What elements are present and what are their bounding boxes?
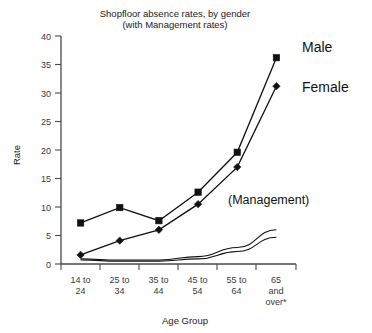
y-axis-label: Rate [11,145,22,165]
series-label-male: Male [302,39,333,55]
y-tick-label: 0 [46,260,51,270]
x-tick-label: 54 [192,286,202,296]
x-tick-label: 64 [231,286,241,296]
x-tick-label: 14 to [70,275,90,285]
x-tick-label: 24 [75,286,85,296]
x-tick-label: 25 to [109,275,129,285]
x-tick-label: 55 to [226,275,246,285]
chart-container: Shopfloor absence rates, by gender (with… [0,0,372,333]
chart-subtitle: (with Management rates) [122,19,227,30]
y-tick-label: 25 [41,117,51,127]
chart-title: Shopfloor absence rates, by gender [100,8,251,19]
y-tick-label: 15 [41,174,51,184]
absence-rates-line-chart: Shopfloor absence rates, by gender (with… [0,0,372,333]
x-tick-label: 65 [271,275,281,285]
y-tick-label: 20 [41,146,51,156]
y-tick-label: 5 [46,231,51,241]
data-point-marker [195,189,201,195]
data-point-marker [77,220,83,226]
y-tick-label: 40 [41,32,51,42]
x-axis-label: Age Group [162,315,208,326]
x-tick-label: 34 [114,286,124,296]
x-tick-label: over* [265,297,287,307]
data-point-marker [273,54,279,60]
management-annotation: (Management) [228,193,309,207]
x-tick-label: and [268,286,283,296]
y-tick-label: 10 [41,203,51,213]
x-tick-label: 44 [153,286,163,296]
y-tick-label: 30 [41,89,51,99]
x-tick-label: 45 to [187,275,207,285]
data-point-marker [156,217,162,223]
y-tick-label: 35 [41,60,51,70]
data-point-marker [234,149,240,155]
data-point-marker [117,204,123,210]
x-tick-label: 35 to [148,275,168,285]
series-label-female: Female [302,79,349,95]
